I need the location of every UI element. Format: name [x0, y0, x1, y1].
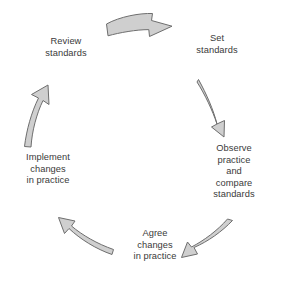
stage-label-observe-practice: Observe practice and compare standards	[196, 143, 272, 201]
stage-label-set-standards: Set standards	[186, 33, 248, 56]
curved-arrow-up-icon	[25, 85, 50, 147]
stage-label-review-standards: Review standards	[24, 36, 108, 59]
audit-cycle-diagram: Review standards Set standards Observe p…	[0, 0, 283, 293]
curved-arrow-right-icon	[107, 13, 173, 36]
curved-arrow-down-icon	[197, 80, 225, 138]
curved-arrow-up-left-icon	[59, 218, 114, 255]
stage-label-agree-changes: Agree changes in practice	[120, 228, 190, 263]
stage-label-implement-changes: Implement changes in practice	[6, 152, 90, 187]
